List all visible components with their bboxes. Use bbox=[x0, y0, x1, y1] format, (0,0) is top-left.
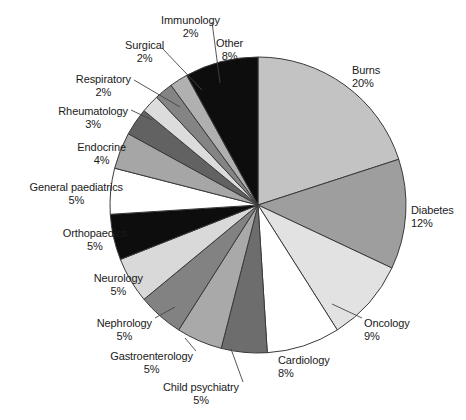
pie-label-percent: 5% bbox=[110, 363, 193, 376]
pie-chart-svg bbox=[0, 0, 466, 420]
pie-label-other: Other8% bbox=[216, 37, 243, 63]
pie-label-percent: 5% bbox=[97, 330, 152, 343]
pie-label-percent: 8% bbox=[216, 50, 243, 63]
pie-label-percent: 5% bbox=[30, 194, 124, 207]
pie-label-percent: 5% bbox=[94, 285, 143, 298]
pie-label-percent: 20% bbox=[352, 77, 380, 90]
pie-label-name: Cardiology bbox=[278, 354, 330, 367]
pie-label-percent: 12% bbox=[411, 217, 454, 230]
pie-label-percent: 3% bbox=[58, 118, 128, 131]
pie-label-name: Neurology bbox=[94, 272, 143, 285]
pie-label-percent: 5% bbox=[63, 240, 127, 253]
pie-label-percent: 5% bbox=[163, 394, 239, 407]
pie-label-name: Nephrology bbox=[97, 317, 152, 330]
pie-label-percent: 2% bbox=[76, 86, 131, 99]
pie-label-neurology: Neurology5% bbox=[94, 272, 143, 298]
pie-label-name: Rheumatology bbox=[58, 105, 128, 118]
pie-label-respiratory: Respiratory2% bbox=[76, 73, 131, 99]
pie-label-orthopaedics: Orthopaedics5% bbox=[63, 227, 127, 253]
pie-label-surgical: Surgical2% bbox=[125, 39, 164, 65]
leader-line-child-psychiatry bbox=[231, 349, 243, 382]
pie-label-percent: 8% bbox=[278, 367, 330, 380]
pie-label-name: Diabetes bbox=[411, 204, 454, 217]
pie-label-rheumatology: Rheumatology3% bbox=[58, 105, 128, 131]
pie-label-child-psychiatry: Child psychiatry5% bbox=[163, 381, 239, 407]
pie-label-name: Orthopaedics bbox=[63, 227, 127, 240]
pie-label-general-paediatrics: General paediatrics5% bbox=[30, 181, 124, 207]
pie-label-name: Respiratory bbox=[76, 73, 131, 86]
pie-label-cardiology: Cardiology8% bbox=[278, 354, 330, 380]
pie-label-nephrology: Nephrology5% bbox=[97, 317, 152, 343]
pie-label-percent: 9% bbox=[364, 330, 410, 343]
pie-label-name: General paediatrics bbox=[30, 181, 124, 194]
pie-slices-group bbox=[110, 57, 406, 353]
pie-label-name: Gastroenterology bbox=[110, 350, 193, 363]
pie-label-diabetes: Diabetes12% bbox=[411, 204, 454, 230]
pie-label-name: Child psychiatry bbox=[163, 381, 239, 394]
pie-label-immunology: Immunology2% bbox=[161, 14, 220, 40]
pie-label-name: Oncology bbox=[364, 317, 410, 330]
pie-label-burns: Burns20% bbox=[352, 64, 380, 90]
pie-label-name: Surgical bbox=[125, 39, 164, 52]
pie-label-percent: 4% bbox=[77, 154, 126, 167]
pie-label-percent: 2% bbox=[125, 52, 164, 65]
pie-label-name: Endocrine bbox=[77, 141, 126, 154]
pie-label-name: Other bbox=[216, 37, 243, 50]
pie-label-gastroenterology: Gastroenterology5% bbox=[110, 350, 193, 376]
pie-label-oncology: Oncology9% bbox=[364, 317, 410, 343]
pie-label-endocrine: Endocrine4% bbox=[77, 141, 126, 167]
pie-chart-figure: Burns20%Diabetes12%Oncology9%Cardiology8… bbox=[0, 0, 466, 420]
pie-label-name: Immunology bbox=[161, 14, 220, 27]
pie-label-percent: 2% bbox=[161, 27, 220, 40]
pie-label-name: Burns bbox=[352, 64, 380, 77]
